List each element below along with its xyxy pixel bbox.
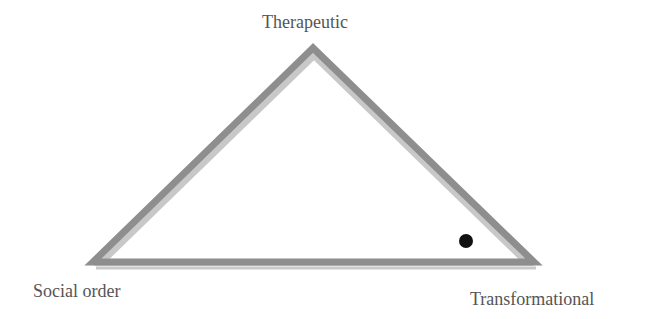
triangle-svg xyxy=(0,0,647,319)
triangle-inner-shadow xyxy=(101,56,527,263)
triangle-outline xyxy=(93,48,534,262)
position-marker-dot xyxy=(459,234,473,248)
triangle-diagram: Therapeutic Social order Transformationa… xyxy=(0,0,647,319)
vertex-label-transformational: Transformational xyxy=(470,290,594,308)
vertex-label-social-order: Social order xyxy=(33,282,120,300)
vertex-label-therapeutic: Therapeutic xyxy=(262,13,348,31)
